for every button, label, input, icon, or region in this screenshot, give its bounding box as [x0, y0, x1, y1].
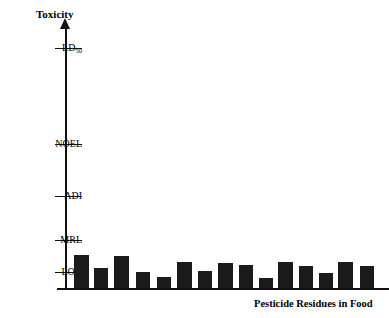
- bar: [198, 271, 212, 288]
- bar: [218, 263, 233, 288]
- bar: [360, 266, 374, 288]
- toxicity-bar-chart: Toxicity LD50NOELADIMRLLOD Pesticide Res…: [0, 0, 389, 318]
- bar: [74, 255, 89, 288]
- bar: [338, 262, 353, 288]
- x-axis-title: Pesticide Residues in Food: [254, 298, 373, 310]
- bar: [278, 262, 293, 288]
- bar-series: [0, 0, 389, 318]
- bar: [259, 278, 273, 288]
- bar: [319, 273, 333, 288]
- bar: [114, 256, 129, 288]
- bar: [299, 266, 313, 288]
- bar: [94, 268, 108, 288]
- bar: [239, 265, 253, 288]
- bar: [177, 262, 192, 288]
- bar: [136, 272, 150, 288]
- bar: [157, 277, 171, 288]
